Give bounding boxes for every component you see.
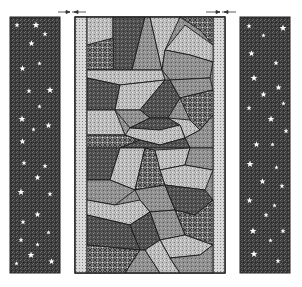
dimension-arrow-right [206,11,236,14]
right-border-strip [213,17,225,273]
dimension-arrow-left [58,11,86,14]
left-border-strip [75,17,87,273]
left-side-panel [10,17,60,273]
patchwork-diagram [0,0,302,287]
center-panel [75,17,225,273]
right-side-panel [240,17,290,273]
